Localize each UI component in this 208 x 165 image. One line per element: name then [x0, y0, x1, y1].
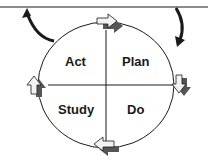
quadrant-label-act: Act — [65, 55, 86, 68]
arrow-down-icon — [172, 75, 191, 96]
quadrant-label-do: Do — [127, 103, 144, 116]
quadrant-label-plan: Plan — [122, 55, 149, 68]
pdsa-cycle-diagram — [0, 0, 208, 165]
quadrant-label-study: Study — [58, 103, 94, 116]
curved-arrow-down-icon — [175, 8, 185, 47]
curved-arrow-up-icon — [22, 8, 54, 41]
arrow-right-icon — [97, 14, 123, 33]
arrow-up-icon — [27, 76, 46, 97]
